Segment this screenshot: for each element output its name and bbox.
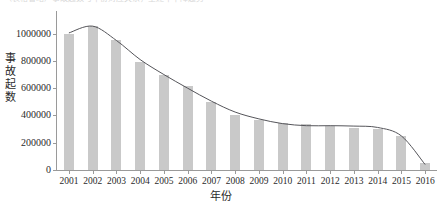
clipped-caption-text: （表格省略）事故起数与年份对应关系，呈逐年下降趋势: [4, 0, 204, 3]
x-tick-mark: [425, 170, 426, 174]
x-tick-label: 2009: [249, 176, 268, 187]
x-tick-label: 2013: [344, 176, 363, 187]
x-tick-label: 2001: [59, 176, 78, 187]
bar: [254, 120, 264, 170]
x-tick-mark: [235, 170, 236, 174]
bar: [183, 86, 193, 170]
bar: [278, 123, 288, 170]
x-tick-label: 2007: [202, 176, 221, 187]
x-tick-mark: [164, 170, 165, 174]
y-tick-label: 600000: [21, 83, 51, 93]
bar: [420, 163, 430, 170]
x-tick-mark: [401, 170, 402, 174]
x-tick-mark: [354, 170, 355, 174]
y-tick-mark: [53, 170, 57, 171]
bar: [159, 75, 169, 170]
y-tick-mark: [53, 143, 57, 144]
bar: [373, 129, 383, 170]
x-tick-mark: [211, 170, 212, 174]
x-tick-label: 2015: [392, 176, 411, 187]
x-tick-label: 2008: [226, 176, 245, 187]
x-tick-mark: [259, 170, 260, 174]
x-tick-mark: [69, 170, 70, 174]
plot-area: 02000004000006000008000001000000 2001200…: [57, 20, 437, 170]
y-tick-label: 0: [46, 165, 51, 175]
x-tick-mark: [306, 170, 307, 174]
x-tick-mark: [330, 170, 331, 174]
x-tick-label: 2010: [273, 176, 292, 187]
bar: [111, 40, 121, 170]
bar: [135, 62, 145, 170]
x-tick-label: 2003: [107, 176, 126, 187]
x-axis-title: 年份: [0, 190, 442, 203]
x-tick-label: 2014: [368, 176, 387, 187]
bar: [64, 34, 74, 170]
y-tick-mark: [53, 115, 57, 116]
x-tick-label: 2006: [178, 176, 197, 187]
x-tick-label: 2012: [321, 176, 340, 187]
x-tick-mark: [378, 170, 379, 174]
x-tick-mark: [116, 170, 117, 174]
bar: [325, 126, 335, 170]
x-tick-label: 2011: [297, 176, 316, 187]
y-tick-mark: [53, 88, 57, 89]
x-axis-line: [56, 170, 437, 171]
y-tick-label: 800000: [21, 56, 51, 66]
x-tick-mark: [188, 170, 189, 174]
y-axis-title: 事故起数: [4, 52, 17, 104]
x-tick-mark: [140, 170, 141, 174]
y-tick-mark: [53, 34, 57, 35]
x-tick-mark: [283, 170, 284, 174]
chart-screenshot: （表格省略）事故起数与年份对应关系，呈逐年下降趋势 事故起数 020000040…: [0, 0, 442, 210]
bar: [88, 26, 98, 170]
y-tick-label: 400000: [21, 110, 51, 120]
bar: [301, 124, 311, 170]
y-tick-label: 200000: [21, 138, 51, 148]
x-tick-mark: [93, 170, 94, 174]
bar: [349, 128, 359, 170]
x-tick-label: 2004: [131, 176, 150, 187]
bar: [230, 115, 240, 170]
y-tick-mark: [53, 61, 57, 62]
x-tick-label: 2002: [83, 176, 102, 187]
bar: [396, 136, 406, 170]
bar: [206, 102, 216, 170]
y-tick-label: 1000000: [16, 29, 51, 39]
y-axis-line: [56, 11, 57, 170]
x-tick-label: 2005: [154, 176, 173, 187]
x-tick-label: 2016: [416, 176, 435, 187]
